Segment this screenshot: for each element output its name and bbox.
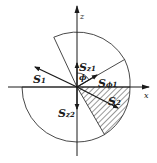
s2-sub: 2 — [116, 98, 121, 107]
z-axis-label: z — [80, 13, 84, 21]
right-arc — [125, 60, 131, 88]
sz2-sub: z2 — [66, 110, 75, 119]
s1-sub: 1 — [41, 76, 46, 85]
sz1-label: Sz1 — [79, 58, 96, 74]
x-axis-label: x — [144, 92, 149, 100]
sz1-main: S — [79, 61, 87, 74]
s1-label: S1 — [33, 70, 46, 86]
s1-main: S — [33, 73, 41, 86]
phi-angle-label: ϕ — [79, 73, 87, 81]
sphi1-label: Sϕ1 — [98, 74, 117, 90]
s2-main: S — [108, 95, 116, 108]
sphi1-sub: ϕ1 — [106, 80, 117, 89]
s2-label: S2 — [108, 92, 121, 108]
sz2-label: Sz2 — [58, 104, 75, 120]
stress-diagram: z x ϕ S1 Sz1 Sϕ1 S2 Sz2 — [0, 0, 157, 163]
sz1-sub: z1 — [87, 64, 96, 73]
sphi1-main: S — [98, 77, 106, 90]
sz2-main: S — [58, 107, 66, 120]
hatched-sector — [77, 87, 130, 135]
bottom-arc — [77, 135, 105, 142]
